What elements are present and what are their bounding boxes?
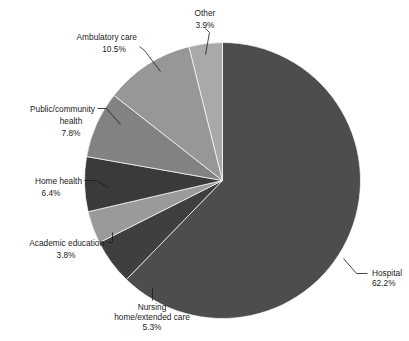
label-academic-education-value: 3.8% — [57, 250, 77, 260]
label-nursing-home-value: 5.3% — [143, 322, 163, 332]
label-public-community-health: Public/community health 7.8% — [30, 104, 96, 138]
label-home-health-value: 6.4% — [42, 188, 62, 198]
label-nursing-home-name-line1: Nursing — [138, 302, 167, 312]
label-home-health-name: Home health — [35, 176, 82, 186]
label-public-community-health-value: 7.8% — [62, 128, 82, 138]
label-hospital-value: 62.2% — [372, 278, 396, 288]
label-nursing-home-name-line2: home/extended care — [114, 312, 190, 322]
label-ambulatory-care: Ambulatory care 10.5% — [77, 32, 138, 54]
label-academic-education-name: Academic education — [29, 238, 104, 248]
label-hospital: Hospital 62.2% — [372, 268, 402, 288]
label-other-value: 3.9% — [196, 20, 216, 30]
pie-slices — [85, 43, 361, 319]
label-hospital-name: Hospital — [372, 268, 402, 278]
leader-line-hospital — [344, 259, 368, 274]
label-home-health: Home health 6.4% — [35, 176, 82, 198]
pie-chart-figure: Hospital 62.2% Nursing home/extended car… — [0, 0, 409, 341]
label-other-name: Other — [195, 8, 216, 18]
label-other: Other 3.9% — [195, 8, 216, 30]
label-public-community-health-line2: health — [60, 116, 83, 126]
label-public-community-health-line1: Public/community — [30, 104, 96, 114]
label-ambulatory-care-value: 10.5% — [102, 44, 126, 54]
pie-chart-svg: Hospital 62.2% Nursing home/extended car… — [0, 0, 409, 341]
label-academic-education: Academic education 3.8% — [29, 238, 104, 260]
label-ambulatory-care-name: Ambulatory care — [77, 32, 138, 42]
